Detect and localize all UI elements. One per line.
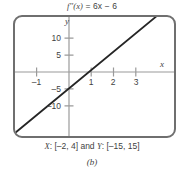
window-y-range: : [–15, 15] [102, 141, 140, 151]
figure-title: f''(x) = 6x − 6 [0, 1, 184, 12]
figure-title-function: f''(x) [67, 1, 83, 11]
x-tick-label--1: –1 [24, 78, 49, 87]
figure-part-label: (b) [0, 157, 184, 168]
x-tick-label-2: 2 [103, 78, 123, 87]
graph-figure: f''(x) = 6x − 6 10 5 –5 –10 –1 [0, 0, 184, 173]
window-x-range: : [–2, 4] and [50, 141, 97, 151]
y-tick-label--10: –10 [30, 102, 61, 111]
y-tick-label-10: 10 [37, 34, 61, 43]
y-axis-label: y [65, 17, 69, 26]
calculator-screen: 10 5 –5 –10 –1 1 2 3 y x [13, 15, 176, 138]
y-tick-label-5: 5 [37, 51, 61, 60]
x-tick-label-1: 1 [81, 78, 101, 87]
x-axis-label: x [160, 60, 164, 69]
viewing-window-caption: X: [–2, 4] and Y: [–15, 15] [0, 141, 184, 152]
figure-title-equation: = 6x − 6 [85, 1, 117, 11]
x-tick-label-3: 3 [126, 78, 146, 87]
